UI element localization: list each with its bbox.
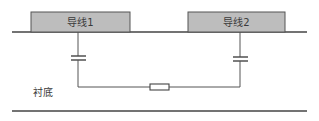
conductor-2: 导线2: [188, 12, 285, 32]
capacitor-2: [233, 32, 248, 87]
capacitor-1: [71, 32, 86, 87]
substrate-resistor-path: [78, 84, 240, 90]
conductor-2-label: 导线2: [223, 16, 249, 28]
resistor-symbol: [150, 84, 169, 90]
conductor-1-label: 导线1: [67, 16, 93, 28]
conductor-1: 导线1: [31, 12, 130, 32]
parasitic-coupling-diagram: 导线1 导线2 衬底: [0, 0, 319, 121]
substrate-label: 衬底: [33, 86, 53, 98]
